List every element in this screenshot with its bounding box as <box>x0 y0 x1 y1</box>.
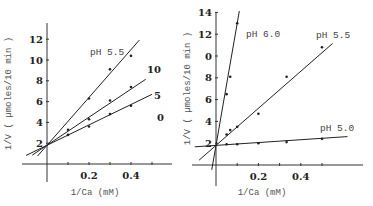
y-tick-label: 6 <box>36 96 43 107</box>
data-point <box>130 86 133 89</box>
figure: 0.20.4246810121/Ca (mM)1/V ( µmoles/10 m… <box>0 0 373 206</box>
data-point <box>321 46 324 49</box>
y-tick-label: 0 <box>205 51 212 62</box>
data-point <box>321 138 324 141</box>
y-tick-label: 8 <box>36 75 43 86</box>
y-axis-title: 1/V ( µmoles/10 min ) <box>183 32 193 145</box>
data-point <box>285 141 288 144</box>
series-5: 5 <box>32 79 161 155</box>
data-point <box>67 134 70 137</box>
data-point <box>257 112 260 115</box>
data-point <box>236 126 239 129</box>
chart-title: pH 5.5 <box>90 47 125 58</box>
fit-line <box>199 43 333 160</box>
data-point <box>130 104 133 107</box>
data-point <box>236 143 239 146</box>
data-point <box>229 75 232 78</box>
x-axis-title: 1/Ca (mM) <box>71 188 120 198</box>
data-point <box>109 68 112 71</box>
y-axis-title: 1/V ( µmoles/10 min ) <box>4 37 14 150</box>
x-tick-label: 0.4 <box>292 171 309 182</box>
data-point <box>225 93 228 96</box>
data-point <box>88 97 91 100</box>
y-tick-label: 2 <box>205 138 212 149</box>
data-point <box>225 133 228 136</box>
data-point <box>88 118 91 121</box>
data-point <box>285 75 288 78</box>
left-panel-pH-5-5: 0.20.4246810121/Ca (mM)1/V ( µmoles/10 m… <box>4 23 172 198</box>
series-label: 5 <box>154 90 161 101</box>
y-tick-label: 8 <box>205 72 212 83</box>
y-tick-label: 10 <box>29 55 43 66</box>
fit-line <box>26 94 152 155</box>
data-point <box>257 142 260 145</box>
y-tick-label: 4 <box>36 117 43 128</box>
data-point <box>109 113 112 116</box>
series-pH-6-0: pH 6.0 <box>212 11 281 170</box>
data-point <box>109 99 112 102</box>
y-tick-label: 6 <box>205 94 212 105</box>
data-point <box>130 55 133 58</box>
y-tick-label: 12 <box>198 29 212 40</box>
x-tick-label: 0.2 <box>80 170 97 181</box>
right-panel-pH-comparison: 0.20.42468012141/Ca (mM)1/V ( µmoles/10 … <box>183 7 363 198</box>
y-tick-label: 2 <box>36 138 43 149</box>
data-point <box>88 125 91 128</box>
x-axis-title: 1/Ca (mM) <box>238 188 287 198</box>
y-tick-label: 4 <box>205 116 212 127</box>
series-label: pH 5.0 <box>320 123 355 134</box>
series-label: pH 5.5 <box>316 30 351 41</box>
series-label: 10 <box>147 64 161 75</box>
data-point <box>236 22 239 25</box>
data-point <box>229 129 232 132</box>
y-tick-label: 14 <box>198 7 212 18</box>
series-pH-5-5: pH 5.5 <box>199 30 350 160</box>
data-point <box>225 143 228 146</box>
x-tick-label: 0.2 <box>250 171 267 182</box>
x-tick-label: 0.4 <box>122 170 139 181</box>
series-label: 0 <box>157 112 164 123</box>
y-tick-label: 12 <box>29 34 43 45</box>
series-label: pH 6.0 <box>246 29 281 40</box>
